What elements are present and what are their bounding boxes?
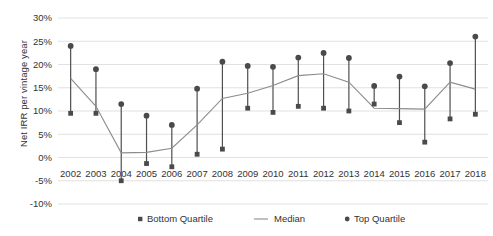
bottom-quartile-marker xyxy=(321,106,326,111)
y-axis-tick-label: 0% xyxy=(38,152,52,163)
x-axis-tick-label: 2016 xyxy=(414,168,435,179)
top-quartile-marker xyxy=(321,50,327,56)
x-axis-tick-label: 2017 xyxy=(439,168,460,179)
irr-quartile-chart: Net IRR per vintage year 30%25%20%15%10%… xyxy=(0,0,493,236)
x-axis-tick-label: 2010 xyxy=(262,168,283,179)
top-quartile-marker xyxy=(371,83,377,89)
top-quartile-marker xyxy=(93,66,99,72)
top-quartile-marker xyxy=(397,74,403,80)
top-quartile-marker xyxy=(118,101,124,107)
bottom-quartile-marker xyxy=(144,161,149,166)
x-axis-tick-label: 2008 xyxy=(212,168,233,179)
top-quartile-marker xyxy=(422,83,428,89)
y-axis-tick-label: 5% xyxy=(38,129,52,140)
bottom-quartile-marker xyxy=(422,140,427,145)
legend-marker-square xyxy=(138,217,142,221)
bottom-quartile-marker xyxy=(397,120,402,125)
y-axis-tick-labels: 30%25%20%15%10%5%0%-5%-10% xyxy=(30,12,53,209)
bottom-quartile-marker xyxy=(473,112,478,117)
top-quartile-marker xyxy=(169,122,175,128)
x-axis-tick-label: 2012 xyxy=(313,168,334,179)
top-quartile-marker xyxy=(295,55,301,61)
top-quartile-marker xyxy=(144,113,150,119)
bottom-quartile-marker xyxy=(271,110,276,115)
top-quartile-marker xyxy=(270,64,276,70)
legend-item-label: Bottom Quartile xyxy=(147,213,213,224)
bottom-quartile-marker xyxy=(68,111,73,116)
chart-legend: Bottom QuartileMedianTop Quartile xyxy=(138,213,405,224)
x-axis-tick-label: 2014 xyxy=(364,168,385,179)
y-axis-tick-label: 25% xyxy=(33,36,53,47)
legend-item-label: Top Quartile xyxy=(354,213,405,224)
bottom-quartile-marker xyxy=(94,111,99,116)
top-quartile-marker xyxy=(68,43,74,49)
x-axis-tick-labels: 2002200320042005200620072008200920102011… xyxy=(60,168,486,179)
top-quartile-marker xyxy=(245,63,251,69)
x-axis-tick-label: 2002 xyxy=(60,168,81,179)
top-quartile-marker xyxy=(194,86,200,92)
y-axis-tick-label: -10% xyxy=(30,198,53,209)
legend-item-label: Median xyxy=(274,213,305,224)
x-axis-tick-label: 2018 xyxy=(465,168,486,179)
y-axis-tick-label: 10% xyxy=(33,105,53,116)
x-axis-tick-label: 2005 xyxy=(136,168,157,179)
top-quartile-marker xyxy=(472,34,478,40)
top-quartile-marker xyxy=(220,59,226,65)
bottom-quartile-marker xyxy=(119,178,124,183)
x-axis-tick-label: 2007 xyxy=(187,168,208,179)
bottom-quartile-marker xyxy=(448,117,453,122)
x-axis-tick-label: 2003 xyxy=(85,168,106,179)
x-axis-tick-label: 2006 xyxy=(161,168,182,179)
bottom-quartile-marker xyxy=(195,152,200,157)
top-quartile-marker xyxy=(346,55,352,61)
chart-plot-area: 30%25%20%15%10%5%0%-5%-10% 2002200320042… xyxy=(0,0,493,236)
y-axis-tick-label: -5% xyxy=(35,175,52,186)
x-axis-tick-label: 2013 xyxy=(338,168,359,179)
bottom-quartile-marker xyxy=(245,106,250,111)
bottom-quartile-marker xyxy=(220,147,225,152)
bottom-quartile-marker xyxy=(372,102,377,107)
bottom-quartile-marker xyxy=(169,164,174,169)
bottom-quartile-marker xyxy=(296,104,301,109)
y-axis-tick-label: 15% xyxy=(33,82,53,93)
x-axis-tick-label: 2011 xyxy=(288,168,308,179)
x-axis-tick-label: 2015 xyxy=(389,168,410,179)
y-axis-tick-label: 20% xyxy=(33,59,53,70)
legend-marker-circle xyxy=(345,217,350,222)
bottom-quartile-marker xyxy=(346,109,351,114)
top-quartile-marker xyxy=(447,60,453,66)
x-axis-tick-label: 2009 xyxy=(237,168,258,179)
y-axis-tick-label: 30% xyxy=(33,12,53,23)
